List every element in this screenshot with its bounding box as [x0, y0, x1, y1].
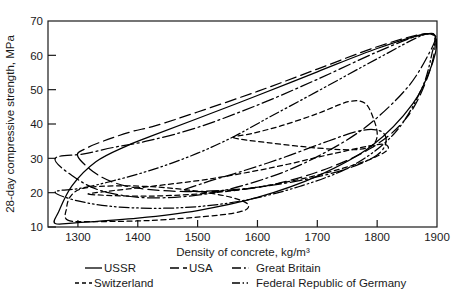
legend-label-usa: USA: [189, 262, 213, 274]
series-curve-usa: [77, 33, 435, 191]
y-tick-label: 20: [30, 187, 43, 199]
y-tick-label: 40: [30, 118, 43, 130]
y-tick-label: 10: [30, 221, 43, 233]
x-tick-label: 1800: [364, 231, 390, 243]
x-tick-label: 1500: [185, 231, 211, 243]
legend-label-great-britain: Great Britain: [256, 262, 321, 274]
legend-label-federal-republic-of-germany: Federal Republic of Germany: [256, 277, 406, 289]
x-axis-tick-labels: 1300140015001600170018001900: [65, 231, 450, 243]
y-axis-title: 28-day compressive strength, MPa: [4, 35, 16, 213]
y-axis-ticks: [48, 55, 56, 227]
x-axis-title: Density of concrete, kg/m³: [176, 246, 310, 258]
legend-label-switzerland: Switzerland: [94, 277, 153, 289]
legend-label-ussr: USSR: [104, 262, 136, 274]
y-tick-label: 50: [30, 84, 43, 96]
x-tick-label: 1600: [245, 231, 271, 243]
y-tick-label: 60: [30, 50, 43, 62]
chart-legend: USSRUSAGreat BritainSwitzerlandFederal R…: [75, 262, 406, 289]
x-tick-label: 1300: [65, 231, 91, 243]
y-axis-tick-labels: 10203040506070: [30, 15, 43, 233]
x-tick-label: 1900: [424, 231, 450, 243]
y-tick-label: 30: [30, 153, 43, 165]
chart-figure: 10203040506070 1300140015001600170018001…: [0, 0, 466, 297]
x-tick-label: 1400: [125, 231, 151, 243]
x-tick-label: 1700: [305, 231, 331, 243]
data-curves: [54, 33, 436, 224]
y-tick-label: 70: [30, 15, 43, 27]
